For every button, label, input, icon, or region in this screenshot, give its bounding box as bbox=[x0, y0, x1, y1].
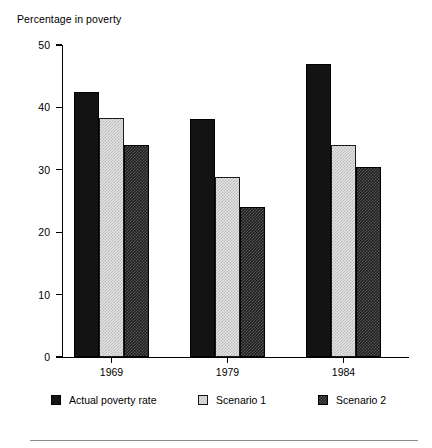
plot-area: 01020304050 196919791984 bbox=[62, 45, 410, 357]
x-axis-label-1979: 1979 bbox=[198, 366, 258, 378]
legend-item-1[interactable]: Scenario 1 bbox=[198, 389, 266, 411]
chart-legend: Actual poverty rateScenario 1Scenario 2 bbox=[0, 389, 432, 411]
bar-group-1984 bbox=[62, 45, 410, 357]
x-tick-1984 bbox=[343, 357, 344, 363]
bar-1984-series-0 bbox=[306, 64, 331, 357]
bar-1984-series-1 bbox=[331, 145, 356, 357]
legend-label-2: Scenario 2 bbox=[336, 395, 386, 406]
legend-label-0: Actual poverty rate bbox=[69, 395, 157, 406]
y-tick-label-0: 0 bbox=[22, 352, 50, 363]
y-tick-label-10: 10 bbox=[22, 290, 50, 301]
legend-item-2[interactable]: Scenario 2 bbox=[318, 389, 386, 411]
legend-swatch-icon-2 bbox=[318, 395, 328, 405]
x-tick-1979 bbox=[227, 357, 228, 363]
chart-title: Percentage in poverty bbox=[17, 13, 121, 25]
x-axis-label-1984: 1984 bbox=[314, 366, 374, 378]
legend-swatch-icon-1 bbox=[198, 395, 208, 405]
legend-label-1: Scenario 1 bbox=[216, 395, 266, 406]
x-axis-label-1969: 1969 bbox=[82, 366, 142, 378]
y-tick-label-20: 20 bbox=[22, 227, 50, 238]
x-tick-1969 bbox=[111, 357, 112, 363]
y-tick-label-30: 30 bbox=[22, 165, 50, 176]
legend-swatch-icon-0 bbox=[51, 395, 61, 405]
footer-divider bbox=[30, 440, 418, 441]
x-axis-line bbox=[61, 357, 409, 358]
legend-item-0[interactable]: Actual poverty rate bbox=[51, 389, 157, 411]
y-tick-label-40: 40 bbox=[22, 102, 50, 113]
poverty-bar-chart-figure: Percentage in poverty 01020304050 196919… bbox=[0, 0, 432, 448]
y-tick-label-50: 50 bbox=[22, 40, 50, 51]
bar-1984-series-2 bbox=[356, 167, 381, 357]
